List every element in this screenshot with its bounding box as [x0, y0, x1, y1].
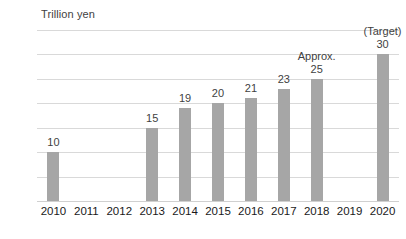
bar[interactable] — [311, 79, 323, 201]
bar-value-label: 25 — [311, 63, 323, 76]
bar-chart: Trillion yen 05101520253035 101519202123… — [0, 0, 406, 239]
bar-slot: 21 — [234, 30, 267, 201]
bar-slot: 15 — [136, 30, 169, 201]
x-tick-label: 2011 — [74, 205, 99, 217]
bar-annotation: (Target) — [364, 25, 402, 38]
bar[interactable] — [212, 103, 224, 201]
bar-value-label: 19 — [179, 92, 191, 105]
bar[interactable] — [47, 152, 59, 201]
y-axis-title: Trillion yen — [41, 8, 95, 20]
x-tick-label: 2018 — [304, 205, 330, 217]
bar[interactable] — [245, 98, 257, 201]
x-tick-label: 2019 — [337, 205, 363, 217]
bar-slot: 10 — [37, 30, 70, 201]
bar-slot: 30(Target) — [366, 30, 399, 201]
x-tick-label: 2015 — [205, 205, 231, 217]
bar-slot — [70, 30, 103, 201]
x-tick-label: 2017 — [271, 205, 297, 217]
bar-slot: 20 — [202, 30, 235, 201]
bar[interactable] — [278, 89, 290, 201]
x-tick-label: 2016 — [238, 205, 264, 217]
plot-area: 05101520253035 10151920212325Approx.30(T… — [37, 30, 399, 201]
x-tick-label: 2012 — [106, 205, 132, 217]
bar-slot — [103, 30, 136, 201]
bar[interactable] — [377, 54, 389, 201]
x-tick-label: 2013 — [139, 205, 165, 217]
bar[interactable] — [179, 108, 191, 201]
bar-value-label: 15 — [146, 112, 158, 125]
bar-value-label: 10 — [47, 136, 59, 149]
x-tick-label: 2014 — [172, 205, 198, 217]
bar-series: 10151920212325Approx.30(Target) — [37, 30, 399, 201]
bar-value-label: 30 — [376, 38, 388, 51]
bar-slot: 23 — [267, 30, 300, 201]
x-tick-label: 2010 — [41, 205, 67, 217]
x-axis: 2010201120122013201420152016201720182019… — [37, 203, 399, 225]
bar-value-label: 20 — [212, 87, 224, 100]
bar-value-label: 21 — [245, 82, 257, 95]
bar-value-label: 23 — [278, 73, 290, 86]
bar-slot — [333, 30, 366, 201]
gridline — [37, 201, 399, 202]
bar-annotation: Approx. — [298, 50, 336, 63]
bar[interactable] — [146, 128, 158, 201]
bar-slot: 25Approx. — [300, 30, 333, 201]
x-tick-label: 2020 — [370, 205, 396, 217]
bar-slot: 19 — [169, 30, 202, 201]
